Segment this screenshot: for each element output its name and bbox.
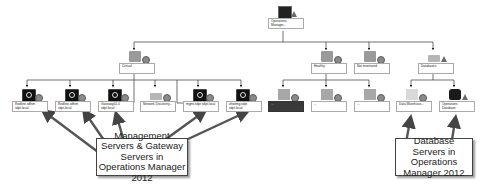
node-mgmt-server-2[interactable]: Redline.sdfsm sdpt.local [53, 89, 93, 119]
node-label: Critical [119, 63, 155, 74]
node-healthy-server-1[interactable]: ... [266, 89, 306, 119]
node-operations-database[interactable]: Operations Database [437, 89, 477, 119]
folder-icon [321, 51, 333, 62]
server-icon [278, 89, 290, 100]
node-gateway-server[interactable]: Gateway01.0 sdpt.local [96, 89, 136, 119]
folder-icon [129, 51, 141, 62]
node-label: Operations Manager... [268, 18, 304, 29]
node-mgmt-server-1[interactable]: Redline.sdfsm sdpt.local [10, 89, 50, 119]
database-light-icon [406, 89, 418, 100]
warning-icon [441, 56, 447, 62]
node-label: Data Warehous... [396, 101, 432, 112]
diagram-canvas: Operations Manager... Critical Healthy N… [0, 0, 482, 191]
node-label: ... [354, 101, 390, 112]
node-data-warehouse[interactable]: Data Warehous... [394, 89, 434, 119]
node-group-healthy[interactable]: Healthy [309, 51, 349, 81]
group-icon [150, 93, 162, 100]
callout-database-servers: Database Servers in Operations Manager 2… [395, 138, 473, 176]
node-label: ... [268, 101, 304, 112]
callout-management-servers: Management Servers & Gateway Servers in … [96, 138, 188, 176]
node-mgmt-server-3[interactable]: mgmt.sdpt sdpt.local [181, 89, 221, 119]
node-label: Operations Database [439, 101, 475, 112]
node-mgmt-server-4[interactable]: ohwtmg.sdpt sdpt.local [224, 89, 264, 119]
server-icon [321, 89, 333, 100]
folder-icon [364, 51, 376, 62]
node-label: Redline.sdfsm sdpt.local [55, 101, 91, 112]
node-label: Not monitored [354, 63, 390, 74]
node-label: ohwtmg.sdpt sdpt.local [226, 101, 262, 112]
node-label: ... [311, 101, 347, 112]
node-label: Healthy [311, 63, 347, 74]
node-network-discovery[interactable]: Network Discovery... [138, 89, 178, 119]
warning-icon [462, 94, 468, 100]
node-healthy-server-3[interactable]: ... [352, 89, 392, 119]
node-healthy-server-2[interactable]: ... [309, 89, 349, 119]
node-group-critical[interactable]: Critical [117, 51, 157, 81]
node-label: Redline.sdfsm sdpt.local [12, 101, 48, 112]
node-root[interactable]: Operations Manager... [266, 6, 306, 36]
node-label: Databases [418, 63, 454, 74]
warning-icon [291, 11, 297, 17]
database-group-icon [428, 55, 440, 62]
node-label: mgmt.sdpt sdpt.local [183, 101, 219, 112]
server-icon [364, 89, 376, 100]
node-group-not-monitored[interactable]: Not monitored [352, 51, 392, 81]
node-label: Gateway01.0 sdpt.local [98, 101, 134, 112]
node-label: Network Discovery... [140, 101, 176, 112]
database-icon [449, 89, 461, 100]
node-group-databases[interactable]: Databases [416, 51, 456, 81]
